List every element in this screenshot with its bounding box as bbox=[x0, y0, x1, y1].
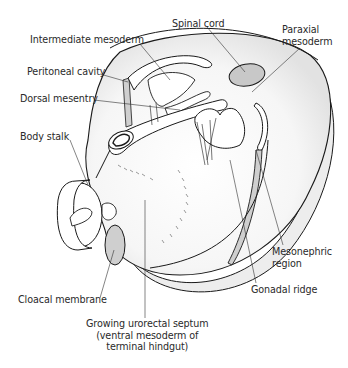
cloacal-membrane bbox=[105, 225, 125, 265]
label-dorsal-mesentry: Dorsal mesentry bbox=[20, 93, 98, 105]
leader-body-stalk bbox=[70, 140, 88, 185]
embryo-diagram bbox=[0, 0, 348, 368]
label-body-stalk: Body stalk bbox=[20, 131, 69, 143]
label-spinal-cord: Spinal cord bbox=[172, 18, 224, 30]
label-gonadal-ridge: Gonadal ridge bbox=[251, 284, 317, 296]
cloacal-bulge bbox=[102, 203, 116, 220]
label-mesonephric-region: Mesonephric region bbox=[272, 246, 332, 269]
label-growing-urorectal-septum: Growing urorectal septum (ventral mesode… bbox=[86, 318, 209, 353]
label-paraxial-mesoderm: Paraxial mesoderm bbox=[282, 24, 332, 47]
label-peritoneal-cavity: Peritoneal cavity bbox=[27, 66, 105, 78]
label-cloacal-membrane: Cloacal membrane bbox=[18, 294, 107, 306]
label-intermediate-mesoderm: Intermediate mesoderm bbox=[30, 34, 144, 46]
